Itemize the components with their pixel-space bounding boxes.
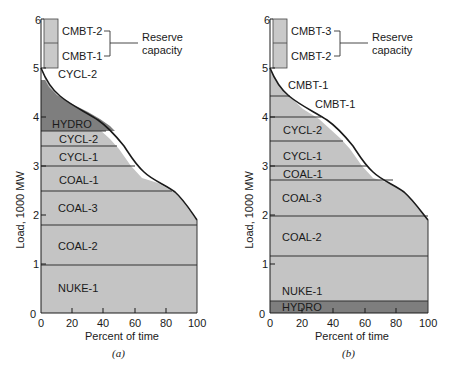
panel-a-ytick-4: 4 [33,111,39,123]
panel-b-reserve-bottom-label: CMBT-2 [291,50,331,62]
panel-b: 0 1 2 3 4 5 6 0 20 40 60 80 100 Percent … [243,14,437,360]
panel-b-ytick-3: 3 [262,160,268,172]
panel-a-xtick-100: 100 [188,317,206,329]
panel-a-label-hydro: HYDRO [52,118,92,130]
panel-a-xtick-20: 20 [66,317,78,329]
panel-a-reserve-top-label: CMBT-2 [62,25,102,37]
panel-b-reserve-caption-1: Reserve [372,31,413,43]
panel-a-label-nuke1: NUKE-1 [58,282,98,294]
panel-b-reserve-top-label: CMBT-3 [291,25,331,37]
panel-b-xtick-20: 20 [296,317,308,329]
panel-b-ylabel: Load, 1000 MW [243,171,255,249]
panel-a-label-cycl2-top: CYCL-2 [58,68,97,80]
panel-a-caption: (a) [112,347,125,360]
panel-a-label-coal1: COAL-1 [59,174,99,186]
panel-b-caption: (b) [342,347,355,360]
panel-a-label-coal2: COAL-2 [58,240,98,252]
panel-b-label-hydro: HYDRO [282,301,322,313]
panel-a-xlabel: Percent of time [85,330,159,342]
panel-b-xtick-40: 40 [327,317,339,329]
panel-b-label-cycl1: CYCL-1 [283,150,322,162]
panel-a-reserve-bracket [104,31,138,56]
panel-a-reserve-caption-1: Reserve [142,31,183,43]
panel-b-xtick-80: 80 [390,317,402,329]
panel-a-ytick-1: 1 [33,258,39,270]
panel-a-xtick-0: 0 [38,317,44,329]
panel-a-xtick-40: 40 [97,317,109,329]
panel-b-reserve-box [273,19,287,68]
panel-b-label-nuke1: NUKE-1 [282,285,322,297]
panel-b-label-coal1: COAL-1 [283,168,323,180]
panel-a: 0 1 2 3 4 5 6 0 20 40 60 80 100 Percent … [14,14,206,360]
panel-b-xlabel: Percent of time [315,330,389,342]
panel-b-ytick-0: 0 [259,308,265,320]
panel-a-xtick-60: 60 [129,317,141,329]
panel-b-label-cycl2: CYCL-2 [283,124,322,136]
panel-b-label-coal2: COAL-2 [282,231,322,243]
panel-a-ytick-5: 5 [33,62,39,74]
panel-b-ytick-2: 2 [262,209,268,221]
panel-a-ytick-2: 2 [33,209,39,221]
panel-a-reserve-caption-2: capacity [142,44,183,56]
panel-b-ytick-6: 6 [264,14,270,26]
panel-b-reserve-caption-2: capacity [372,44,413,56]
panel-b-label-cmbt1-mid: CMBT-1 [315,98,355,110]
figure-canvas: 0 1 2 3 4 5 6 0 20 40 60 80 100 Percent … [0,0,452,372]
panel-a-label-coal3: COAL-3 [58,202,98,214]
panel-b-xtick-60: 60 [359,317,371,329]
panel-b-reserve-bracket [334,31,368,56]
panel-a-label-cycl2: CYCL-2 [59,133,98,145]
panel-a-ylabel: Load, 1000 MW [14,171,26,249]
panel-b-label-coal3: COAL-3 [282,192,322,204]
panel-a-reserve-box [44,19,58,68]
panel-b-ytick-1: 1 [262,258,268,270]
panel-b-label-cmbt1-top: CMBT-1 [288,79,328,91]
panel-a-ytick-6: 6 [35,14,41,26]
panel-a-ytick-0: 0 [30,308,36,320]
panel-b-xtick-0: 0 [267,317,273,329]
panel-b-xtick-100: 100 [419,317,437,329]
panel-a-label-cycl1: CYCL-1 [59,151,98,163]
panel-a-xtick-80: 80 [160,317,172,329]
panel-b-ytick-5: 5 [262,62,268,74]
panel-a-ytick-3: 3 [33,160,39,172]
panel-a-reserve-bottom-label: CMBT-1 [62,50,102,62]
panel-b-ytick-4: 4 [262,111,268,123]
